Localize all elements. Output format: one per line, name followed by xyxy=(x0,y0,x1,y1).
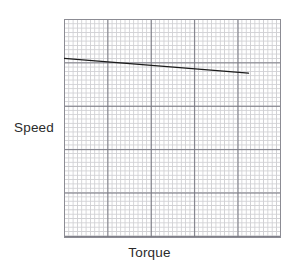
plot-area xyxy=(64,19,281,238)
plot-frame-border xyxy=(64,19,281,238)
x-axis-label: Torque xyxy=(0,246,299,260)
y-axis-label: Speed xyxy=(14,121,54,135)
chart-figure: Speed Torque xyxy=(0,0,299,268)
